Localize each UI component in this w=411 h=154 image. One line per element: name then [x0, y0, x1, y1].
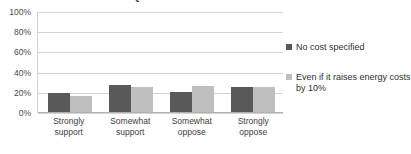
legend-label: Even if it raises energy costs by 10% — [296, 72, 411, 95]
bar[interactable] — [131, 87, 153, 112]
x-tick-label-line: Somewhat — [161, 116, 223, 127]
chart-title: SUPPORT FOR A REQUIREMENT THAT UTILITIES… — [34, 0, 284, 3]
y-tick-label: 20% — [14, 88, 31, 97]
x-axis-labels: StronglysupportSomewhatsupportSomewhatop… — [38, 116, 284, 138]
bar-groups — [39, 12, 283, 112]
chart-legend: No cost specifiedEven if it raises energ… — [286, 42, 411, 113]
x-tick-label-line: Somewhat — [100, 116, 162, 127]
legend-swatch-icon — [286, 74, 292, 80]
legend-swatch-icon — [286, 44, 292, 50]
bar-group — [100, 12, 161, 112]
y-axis-labels: 100%80%60%40%20%0% — [0, 6, 34, 119]
plot-area — [37, 12, 283, 113]
x-tick-label-line: Strongly — [38, 116, 100, 127]
x-tick-label-line: support — [100, 127, 162, 138]
x-tick-label-line: Strongly — [223, 116, 285, 127]
gridline — [38, 113, 283, 114]
bar[interactable] — [70, 96, 92, 112]
x-tick-label: Somewhatoppose — [161, 116, 223, 138]
bar[interactable] — [109, 85, 131, 112]
x-tick-label: Somewhatsupport — [100, 116, 162, 138]
y-tick-label: 100% — [9, 8, 31, 17]
x-tick-label-line: support — [38, 127, 100, 138]
y-tick-label: 60% — [14, 48, 31, 57]
y-tick-label: 40% — [14, 68, 31, 77]
legend-label: No cost specified — [296, 42, 365, 54]
legend-item[interactable]: No cost specified — [286, 42, 411, 54]
bar-group — [161, 12, 222, 112]
bar[interactable] — [48, 93, 70, 112]
y-tick-label: 80% — [14, 28, 31, 37]
bar-group — [39, 12, 100, 112]
legend-item[interactable]: Even if it raises energy costs by 10% — [286, 72, 411, 95]
bar[interactable] — [231, 87, 253, 112]
x-tick-label: Stronglysupport — [38, 116, 100, 138]
bar-chart: SUPPORT FOR A REQUIREMENT THAT UTILITIES… — [0, 0, 411, 154]
x-tick-label-line: oppose — [161, 127, 223, 138]
bar[interactable] — [192, 86, 214, 112]
x-tick-label: Stronglyoppose — [223, 116, 285, 138]
x-tick-label-line: oppose — [223, 127, 285, 138]
bar[interactable] — [253, 87, 275, 112]
y-tick-label: 0% — [19, 109, 31, 118]
bar-group — [222, 12, 283, 112]
bar[interactable] — [170, 92, 192, 112]
x-axis-line — [38, 112, 283, 113]
